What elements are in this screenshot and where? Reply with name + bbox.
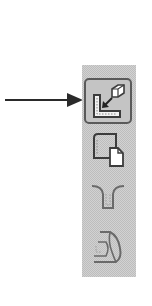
insert-component-icon [88, 81, 128, 121]
bend-feature-icon [88, 226, 128, 266]
copy-sheet-button[interactable] [84, 125, 132, 171]
pointer-arrow-icon [5, 93, 83, 107]
mold-core-icon [88, 176, 128, 216]
vertical-toolbar [82, 65, 136, 277]
bend-feature-button[interactable] [84, 223, 132, 269]
copy-sheet-icon [88, 128, 128, 168]
mold-core-button[interactable] [84, 173, 132, 219]
insert-component-button[interactable] [84, 78, 132, 124]
